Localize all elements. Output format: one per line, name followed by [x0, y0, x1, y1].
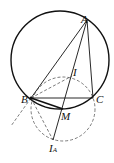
label-i: I [73, 67, 77, 78]
label-c: C [96, 94, 103, 105]
label-ia: IA [49, 143, 57, 154]
label-ia-sub: A [53, 146, 57, 154]
label-b: B [21, 94, 28, 105]
diagram-canvas [0, 0, 114, 163]
line-a-ia [53, 20, 87, 140]
label-a: A [81, 14, 88, 25]
label-m: M [61, 111, 70, 122]
geometry-diagram: A B C I M IA [0, 0, 114, 163]
point-b-dot [29, 96, 32, 99]
segment-ab [31, 20, 87, 98]
segment-ac [87, 20, 93, 98]
